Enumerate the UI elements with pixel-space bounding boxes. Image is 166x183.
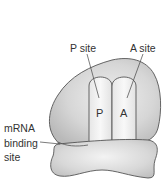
mrna-leader-line	[40, 142, 60, 144]
mrna-label-line3: site	[4, 151, 21, 163]
ribosome-diagram: P A P site A site mRNA binding site	[0, 0, 166, 183]
mrna-label-line1: mRNA	[4, 122, 35, 134]
p-site-letter: P	[96, 107, 103, 119]
p-site-label: P site	[70, 42, 96, 54]
mrna-label-line2: binding	[4, 137, 38, 149]
a-site-label: A site	[130, 42, 156, 54]
a-site-letter: A	[120, 107, 128, 119]
